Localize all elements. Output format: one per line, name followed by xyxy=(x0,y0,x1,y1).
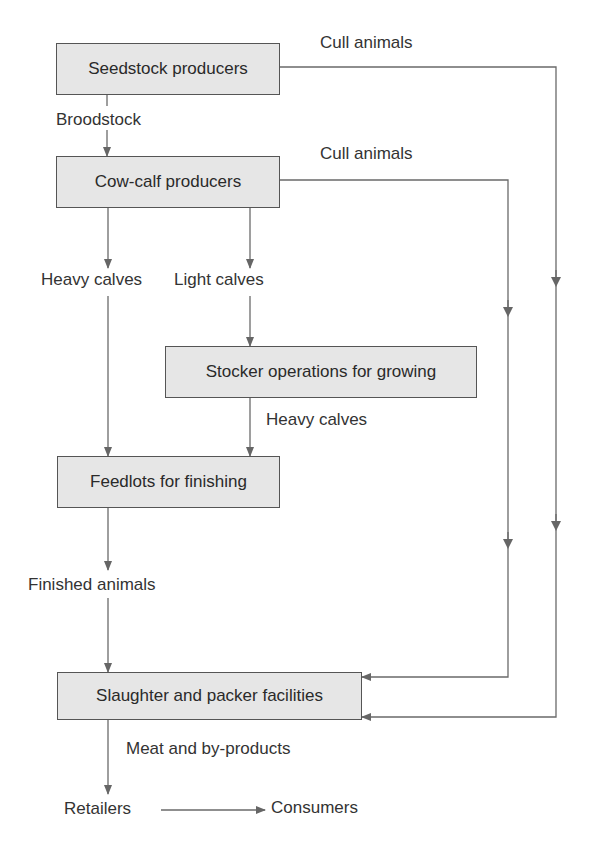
edge-label-cull-animals-1: Cull animals xyxy=(320,33,413,53)
edge-label-heavy-calves-1: Heavy calves xyxy=(41,270,142,290)
node-consumers: Consumers xyxy=(271,798,358,818)
node-label: Cow-calf producers xyxy=(95,172,241,192)
flowchart-canvas: Seedstock producers Cow-calf producers S… xyxy=(0,0,591,855)
node-label: Feedlots for finishing xyxy=(90,472,247,492)
node-retailers: Retailers xyxy=(64,799,131,819)
node-seedstock-producers: Seedstock producers xyxy=(56,43,280,95)
edge-label-light-calves: Light calves xyxy=(174,270,264,290)
edge-label-finished-animals: Finished animals xyxy=(28,575,156,595)
node-label: Seedstock producers xyxy=(88,59,248,79)
node-cow-calf-producers: Cow-calf producers xyxy=(56,156,280,208)
edge-label-meat-by-products: Meat and by-products xyxy=(126,739,290,759)
node-feedlots: Feedlots for finishing xyxy=(57,456,280,508)
edge-label-heavy-calves-2: Heavy calves xyxy=(266,410,367,430)
node-label: Stocker operations for growing xyxy=(206,362,437,382)
edge-label-broodstock: Broodstock xyxy=(56,110,141,130)
node-slaughter-packer: Slaughter and packer facilities xyxy=(57,672,362,720)
edge-label-cull-animals-2: Cull animals xyxy=(320,144,413,164)
node-stocker-operations: Stocker operations for growing xyxy=(165,346,477,398)
node-label: Slaughter and packer facilities xyxy=(96,686,323,706)
